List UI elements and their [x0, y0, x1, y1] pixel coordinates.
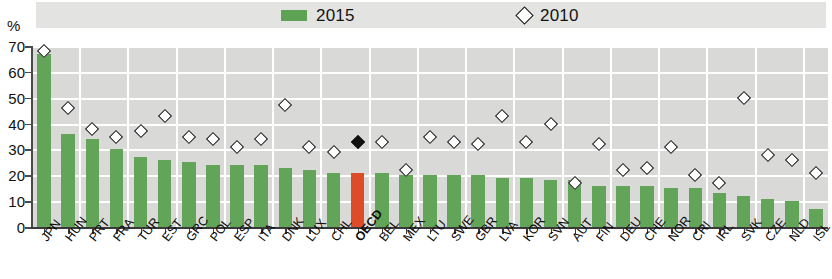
y-axis-tick-label: 40 — [1, 117, 25, 132]
bar-tur — [134, 157, 148, 227]
gridline-vertical — [272, 46, 274, 227]
bar-jpn — [37, 54, 51, 227]
gridline-vertical — [417, 46, 419, 227]
y-axis-tick-label: 10 — [1, 194, 25, 209]
bar-prt — [86, 139, 100, 227]
gridline-vertical — [369, 46, 371, 227]
gridline-vertical — [658, 46, 660, 227]
chart-page: 2015 2010 % 010203040506070 JPNHUNPRTFRA… — [0, 0, 832, 279]
bar-svn — [544, 180, 558, 227]
legend-label-2015: 2015 — [316, 7, 355, 24]
y-axis-tick-label: 50 — [1, 91, 25, 106]
y-axis-line — [31, 46, 33, 228]
y-axis-tick-mark — [25, 98, 31, 100]
y-axis-tick-mark — [25, 46, 31, 48]
bar-lux — [303, 170, 317, 227]
bar-chl — [327, 173, 341, 227]
gridline-horizontal — [32, 46, 828, 48]
y-axis-tick-label: 20 — [1, 168, 25, 183]
gridline-vertical — [513, 46, 515, 227]
bar-pol — [206, 165, 220, 227]
bar-ita — [254, 165, 268, 227]
bar-est — [158, 160, 172, 227]
chart-legend: 2015 2010 — [36, 2, 826, 28]
y-axis-tick-label: 70 — [1, 39, 25, 54]
gridline-horizontal — [32, 98, 828, 100]
y-axis-tick-mark — [25, 149, 31, 151]
bar-grc — [182, 162, 196, 227]
y-axis-tick-mark — [25, 72, 31, 74]
y-axis-tick-mark — [25, 201, 31, 203]
gridline-vertical — [176, 46, 178, 227]
legend-label-2010: 2010 — [540, 7, 579, 24]
open-diamond-marker-icon — [515, 6, 533, 24]
gridline-vertical — [610, 46, 612, 227]
bar-fra — [110, 149, 124, 227]
bar-esp — [230, 165, 244, 227]
gridline-vertical — [127, 46, 129, 227]
gridline-vertical — [465, 46, 467, 227]
legend-entry-2015: 2015 — [281, 3, 355, 27]
gridline-vertical — [755, 46, 757, 227]
bar-hun — [61, 134, 75, 227]
gridline-vertical — [79, 46, 81, 227]
y-axis-tick-label: 0 — [1, 220, 25, 235]
gridline-vertical — [320, 46, 322, 227]
y-axis-tick-mark — [25, 175, 31, 177]
bar-mex — [399, 175, 413, 227]
gridline-horizontal — [32, 72, 828, 74]
gridline-vertical — [803, 46, 805, 227]
bar-swe — [447, 175, 461, 227]
y-axis-tick-labels: 010203040506070 — [0, 0, 25, 279]
gridline-vertical — [706, 46, 708, 227]
gridline-horizontal — [32, 124, 828, 126]
green-square-swatch-icon — [281, 10, 307, 21]
gridline-horizontal — [32, 149, 828, 151]
bar-oecd — [351, 173, 365, 227]
gridline-vertical — [562, 46, 564, 227]
y-axis-tick-label: 30 — [1, 142, 25, 157]
y-axis-tick-mark — [25, 124, 31, 126]
y-axis-tick-mark — [25, 227, 31, 229]
legend-entry-2010: 2010 — [516, 3, 579, 27]
y-axis-tick-label: 60 — [1, 65, 25, 80]
bar-ltu — [423, 175, 437, 227]
gridline-vertical — [224, 46, 226, 227]
bar-dnk — [279, 168, 293, 227]
